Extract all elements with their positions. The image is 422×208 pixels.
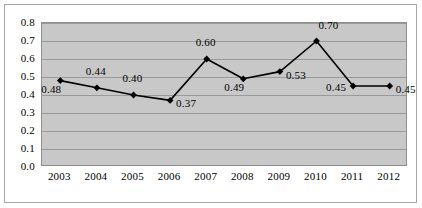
- x-axis-tick-label: 2012: [377, 170, 400, 182]
- y-axis: 0.80.70.60.50.40.30.20.10.0: [4, 22, 38, 166]
- x-axis-tick-label: 2011: [341, 170, 363, 182]
- data-point-value-label: 0.37: [176, 97, 196, 109]
- x-axis-tick-label: 2005: [121, 170, 144, 182]
- data-point-value-label: 0.45: [396, 83, 416, 95]
- x-axis-tick-label: 2009: [267, 170, 290, 182]
- x-axis-tick-label: 2007: [194, 170, 217, 182]
- data-point-value-label: 0.48: [41, 83, 61, 95]
- y-axis-tick-label: 0.5: [21, 70, 35, 82]
- x-axis-tick-label: 2004: [84, 170, 107, 182]
- data-point-value-label: 0.44: [86, 65, 106, 77]
- y-axis-tick-label: 0.6: [21, 52, 35, 64]
- y-axis-tick-label: 0.0: [21, 160, 35, 172]
- y-axis-tick-label: 0.7: [21, 34, 35, 46]
- y-axis-tick-label: 0.8: [21, 16, 35, 28]
- x-axis-tick-label: 2010: [304, 170, 327, 182]
- data-point-value-label: 0.53: [286, 69, 306, 81]
- data-point-value-label: 0.70: [319, 19, 339, 31]
- data-point-value-label: 0.45: [326, 81, 346, 93]
- x-axis: 2003200420052006200720082009201020112012: [41, 170, 407, 188]
- line-chart-figure: 0.80.70.60.50.40.30.20.10.0 0.480.440.40…: [0, 0, 422, 208]
- data-point-value-label: 0.60: [196, 36, 216, 48]
- x-axis-tick-label: 2006: [158, 170, 181, 182]
- y-axis-tick-label: 0.4: [21, 88, 35, 100]
- y-axis-tick-label: 0.3: [21, 106, 35, 118]
- data-point-labels: 0.480.440.400.370.600.490.530.700.450.45: [41, 22, 407, 166]
- y-axis-tick-label: 0.1: [21, 142, 35, 154]
- data-point-value-label: 0.40: [122, 72, 142, 84]
- x-axis-tick-label: 2003: [48, 170, 71, 182]
- y-axis-tick-label: 0.2: [21, 124, 35, 136]
- data-point-value-label: 0.49: [224, 81, 244, 93]
- x-axis-tick-label: 2008: [231, 170, 254, 182]
